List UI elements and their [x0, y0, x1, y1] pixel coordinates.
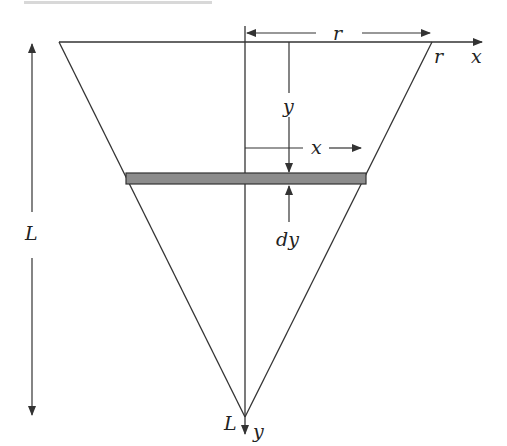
label-y-axis: y — [252, 420, 264, 442]
label-apex-L: L — [223, 412, 237, 434]
label-x-width: x — [311, 136, 322, 158]
cone-diagram: r r x y x dy L L y — [0, 0, 507, 446]
label-y-depth: y — [282, 95, 294, 117]
cone-left-side — [59, 42, 245, 417]
label-x-axis: x — [471, 45, 482, 67]
label-L: L — [24, 222, 38, 244]
thin-strip — [126, 173, 366, 184]
label-r-top: r — [333, 22, 344, 44]
top-rule — [24, 1, 212, 4]
label-dy: dy — [276, 228, 299, 250]
label-r-corner: r — [434, 45, 445, 67]
cone-right-side — [245, 42, 432, 417]
